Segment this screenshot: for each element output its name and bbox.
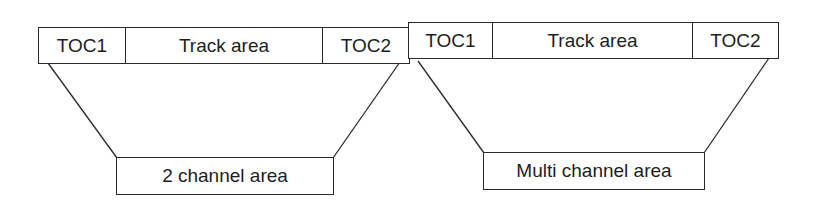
left-toc1-segment: TOC1 — [39, 28, 126, 63]
right-toc2-segment: TOC2 — [693, 23, 778, 58]
right-track-area-segment: Track area — [493, 23, 693, 58]
left-area-right-connector — [333, 62, 400, 158]
right-disc-layout-bar: TOC1 Track area TOC2 — [408, 22, 779, 59]
right-toc1-segment: TOC1 — [409, 23, 493, 58]
two-channel-area-box: 2 channel area — [116, 157, 334, 195]
two-channel-area-label: 2 channel area — [162, 165, 288, 187]
left-toc2-segment: TOC2 — [323, 28, 409, 63]
left-area-left-connector — [48, 63, 117, 158]
right-area-left-connector — [418, 61, 484, 153]
multi-channel-area-box: Multi channel area — [483, 152, 705, 190]
left-disc-layout-bar: TOC1 Track area TOC2 — [38, 27, 410, 64]
right-area-right-connector — [704, 58, 769, 153]
left-track-area-segment: Track area — [126, 28, 323, 63]
multi-channel-area-label: Multi channel area — [516, 160, 671, 182]
